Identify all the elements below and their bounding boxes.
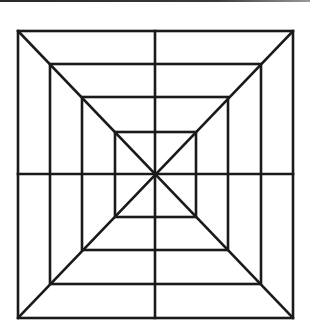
nested-squares-diagram [0,0,310,331]
